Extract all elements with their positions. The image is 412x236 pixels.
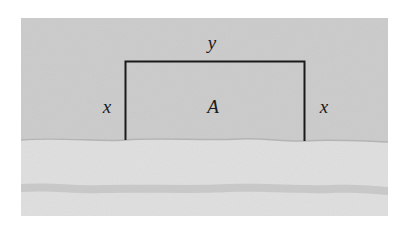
river-region bbox=[21, 139, 388, 216]
diagram-canvas: y x x A bbox=[0, 0, 412, 236]
right-side-label: x bbox=[320, 97, 328, 116]
top-side-label: y bbox=[208, 33, 216, 52]
fence-river-diagram bbox=[0, 0, 412, 236]
left-side-label: x bbox=[103, 97, 111, 116]
area-label: A bbox=[207, 97, 219, 116]
